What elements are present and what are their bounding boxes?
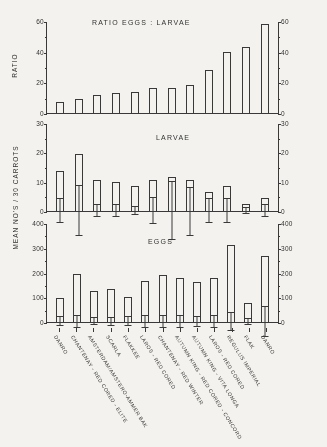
y-tick-mark xyxy=(278,183,281,184)
y-tick-mark xyxy=(278,249,281,250)
bar xyxy=(205,192,213,211)
x-axis-category-label: DANRO xyxy=(260,334,276,355)
bar xyxy=(56,102,64,113)
x-axis-category-label: REGULUS IMPERIAL xyxy=(226,334,263,388)
bar-slot xyxy=(125,22,144,113)
error-bar-cap xyxy=(94,204,101,205)
bar xyxy=(141,281,149,322)
bar xyxy=(56,171,64,211)
y-minor-tick xyxy=(278,168,280,169)
error-bar-cap xyxy=(90,317,97,318)
x-tick-mark xyxy=(197,328,198,332)
bar xyxy=(124,297,132,322)
error-bar-cap xyxy=(142,315,149,316)
y-tick-mark xyxy=(278,153,281,154)
error-bar-cap xyxy=(168,181,175,182)
bar-slot xyxy=(85,224,102,322)
x-tick-mark xyxy=(249,328,250,332)
error-bar-cap xyxy=(261,216,268,217)
bar xyxy=(149,180,157,211)
x-tick-mark xyxy=(111,328,112,332)
error-bar-cap xyxy=(56,325,63,326)
error-bar-cap xyxy=(176,315,183,316)
y-tick-mark xyxy=(278,114,281,115)
x-tick-mark xyxy=(232,328,233,332)
y-minor-tick xyxy=(278,261,280,262)
error-bar-cap xyxy=(57,198,64,199)
bar xyxy=(186,180,194,211)
y-tick-mark xyxy=(278,298,281,299)
bar-slot xyxy=(144,124,163,211)
error-bar-cap xyxy=(243,213,250,214)
error-bar-cap xyxy=(94,216,101,217)
y-axis-label-mean: MEAN NO'S / 30 CARROTS xyxy=(12,140,19,256)
x-tick-mark xyxy=(76,328,77,332)
error-bar-cap xyxy=(193,316,200,317)
bar-slot xyxy=(137,224,154,322)
y-minor-tick xyxy=(278,68,280,69)
bar-slot xyxy=(51,224,68,322)
error-bar-cap xyxy=(113,216,120,217)
x-tick-mark xyxy=(93,328,94,332)
y-minor-tick xyxy=(278,311,280,312)
bar xyxy=(193,282,201,322)
x-tick-mark xyxy=(163,328,164,332)
y-minor-tick xyxy=(278,286,280,287)
error-bar-cap xyxy=(113,204,120,205)
bar-slot xyxy=(237,22,256,113)
bar-slot xyxy=(70,22,89,113)
error-bar-cap xyxy=(245,324,252,325)
y-minor-tick xyxy=(278,139,280,140)
figure-canvas: RATIO EGGS : LARVAE RATIO 02040600204060… xyxy=(0,0,327,447)
bar-slot xyxy=(70,124,89,211)
x-axis-category-label: FLAKKEE xyxy=(122,334,142,360)
bar xyxy=(75,154,83,211)
bar xyxy=(223,52,231,113)
x-tick-mark xyxy=(214,328,215,332)
bar xyxy=(149,88,157,113)
x-axis-category-label: AUTUMN KING - RED CORED - CONCORD xyxy=(174,334,244,440)
bar-slot xyxy=(223,224,240,322)
plot-area-ratio: 02040600204060 xyxy=(46,22,279,114)
error-bar-cap xyxy=(159,315,166,316)
error-bar-cap xyxy=(73,315,80,316)
bar-slot xyxy=(102,224,119,322)
bar-slot xyxy=(218,22,237,113)
error-bar-cap xyxy=(243,207,250,208)
bar xyxy=(242,47,250,113)
panel-eggs: EGGS MEAN NO'S / 30 CARROTS 010020030040… xyxy=(0,218,327,330)
bar xyxy=(261,256,269,322)
bar-slot xyxy=(162,124,181,211)
y-tick-mark xyxy=(278,124,281,125)
panel-larvae: LARVAE 01020300102030 xyxy=(0,118,327,218)
y-tick-mark xyxy=(44,323,47,324)
y-tick-mark xyxy=(278,274,281,275)
bar xyxy=(112,93,120,113)
y-tick-mark xyxy=(278,224,281,225)
error-bar-cap xyxy=(56,316,63,317)
plot-area-eggs: 01002003004000100200300400 xyxy=(46,224,279,323)
bar-slot xyxy=(107,22,126,113)
error-bar-cap xyxy=(131,214,138,215)
y-axis-label-ratio: RATIO xyxy=(11,46,18,86)
error-bar-cap xyxy=(150,197,157,198)
y-minor-tick xyxy=(278,197,280,198)
error-bar-cap xyxy=(245,318,252,319)
bar xyxy=(131,186,139,211)
bar-slot xyxy=(88,22,107,113)
y-minor-tick xyxy=(278,37,280,38)
bar xyxy=(159,275,167,322)
y-tick-mark xyxy=(278,53,281,54)
bar-slot xyxy=(200,124,219,211)
bar xyxy=(210,278,218,322)
bar-slot xyxy=(218,124,237,211)
bar-slot xyxy=(88,124,107,211)
bar-slot xyxy=(162,22,181,113)
bar-slot xyxy=(205,224,222,322)
bar-slot xyxy=(181,22,200,113)
bar-slot xyxy=(188,224,205,322)
bar-slot xyxy=(51,22,70,113)
error-bar-cap xyxy=(210,315,217,316)
error-bar-cap xyxy=(75,185,82,186)
y-minor-tick xyxy=(278,236,280,237)
